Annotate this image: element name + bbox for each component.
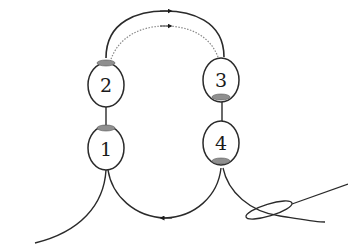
node-1-label: 1: [100, 138, 112, 160]
node-3-label: 3: [215, 69, 227, 91]
tail-left: [35, 170, 106, 243]
edge-2-to-3-dotted: [110, 26, 218, 62]
cap-node-3: [212, 94, 230, 100]
node-3: 3: [203, 58, 239, 102]
node-4-label: 4: [215, 132, 227, 154]
node-1: 1: [88, 125, 124, 170]
diagram-canvas: 2 3 1 4: [0, 0, 348, 244]
node-2-label: 2: [100, 74, 112, 96]
tail-right-loop: [223, 168, 348, 223]
node-2: 2: [88, 60, 124, 107]
cap-node-1: [97, 125, 115, 131]
node-4: 4: [203, 121, 239, 165]
edge-2-to-3-solid: [106, 11, 224, 58]
cap-node-4: [212, 158, 230, 164]
edge-4-to-1: [108, 168, 221, 218]
cap-node-2: [97, 60, 115, 66]
